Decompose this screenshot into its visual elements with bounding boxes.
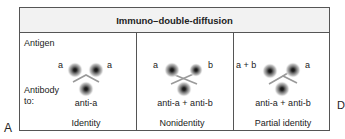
antigen-left-label: a + b bbox=[236, 60, 256, 70]
figure-panel-label: A bbox=[4, 121, 12, 135]
antigen-right-label: a bbox=[305, 60, 310, 70]
identity-pattern bbox=[67, 62, 104, 97]
antibody-label: anti-a bbox=[75, 98, 98, 108]
antigen-right-label: b bbox=[208, 60, 213, 70]
partial-identity-pattern bbox=[262, 62, 301, 97]
nonidentity-pattern bbox=[164, 62, 203, 97]
antigen-left-label: a bbox=[153, 60, 158, 70]
antibody-label: anti-a + anti-b bbox=[157, 98, 212, 108]
antibody-row-label: Antibody bbox=[24, 85, 59, 95]
panel-caption: Nonidentity bbox=[159, 118, 204, 128]
antigen-right-label: a bbox=[107, 60, 112, 70]
cut-off-panel-label: D bbox=[337, 99, 345, 111]
panel-caption: Partial identity bbox=[255, 118, 312, 128]
panel-caption: Identity bbox=[71, 118, 100, 128]
antibody-row-label-2: to: bbox=[24, 96, 34, 106]
antigen-row-label: Antigen bbox=[24, 38, 55, 48]
antibody-label: anti-a + anti-b bbox=[255, 98, 310, 108]
antigen-left-label: a bbox=[58, 60, 63, 70]
